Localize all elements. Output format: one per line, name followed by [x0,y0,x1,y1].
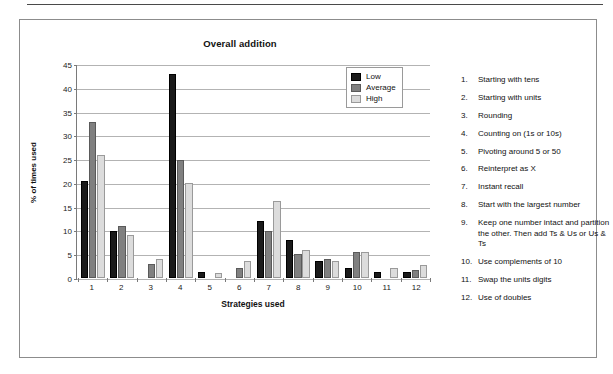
y-axis-tick-label: 35 [63,108,72,117]
x-axis-tick-mark [283,278,284,282]
x-axis-tick-mark [195,278,196,282]
key-list-item-number: 4. [461,129,478,138]
key-list-item: 4.Counting on (1s or 10s) [461,129,611,140]
chart-legend: Low Average High [346,67,403,108]
bar-low-10 [345,268,353,278]
bar-high-3 [156,259,164,278]
x-axis-tick-label: 7 [254,283,284,292]
key-list-item-number: 5. [461,147,478,156]
x-axis-tick-label: 5 [195,283,225,292]
bar-high-8 [302,250,310,278]
bar-group [137,65,166,278]
x-axis-tick-label: 8 [284,283,314,292]
y-axis-title: % of times used [26,65,40,280]
page-top-rule [27,4,603,5]
key-list-item-number: 7. [461,182,478,191]
x-axis-tick-label: 3 [136,283,166,292]
key-list-item: 6.Reinterpret as X [461,164,611,175]
x-axis-tick-mark [254,278,255,282]
key-list-item-text: Rounding [478,111,512,122]
bar-low-4 [169,74,177,278]
x-axis-tick-labels: 123456789101112 [77,283,431,292]
legend-item-average: Average [351,82,396,93]
y-axis-tick-label: 0 [68,275,72,284]
key-list-item-text: Use complements of 10 [478,257,562,268]
x-axis-tick-mark [225,278,226,282]
legend-label-average: Average [366,83,396,92]
x-axis-tick-label: 6 [225,283,255,292]
bar-low-7 [257,221,265,278]
y-axis-tick-label: 30 [63,132,72,141]
y-axis-tick-label: 5 [68,251,72,260]
bar-average-10 [353,252,361,279]
bar-group [313,65,342,278]
key-list-item-number: 3. [461,111,478,120]
y-axis-tick-mark [74,231,77,232]
bar-group [78,65,107,278]
key-list-item-text: Starting with tens [478,75,539,86]
key-list-item-text: Starting with units [478,93,541,104]
bar-group [166,65,195,278]
bar-high-4 [185,183,193,278]
key-list-item-text: Use of doubles [478,293,531,304]
y-axis-tick-label: 10 [63,227,72,236]
key-list-item-number: 1. [461,75,478,84]
figure-container: Overall addition % of times used 0510152… [19,19,597,358]
x-axis-tick-label: 1 [77,283,107,292]
legend-label-high: High [366,94,382,103]
x-axis-title: Strategies used [76,299,430,309]
chart-title: Overall addition [20,38,460,49]
key-list-item-number: 2. [461,93,478,102]
x-axis-tick-label: 4 [166,283,196,292]
y-axis-tick-label: 25 [63,156,72,165]
key-list-item: 3.Rounding [461,111,611,122]
x-axis-tick-label: 10 [343,283,373,292]
y-axis-title-label: % of times used [29,142,38,203]
x-axis-tick-label: 12 [402,283,432,292]
key-list-item-number: 11. [461,275,478,284]
x-axis-tick-mark [313,278,314,282]
y-axis-tick-mark [74,89,77,90]
legend-label-low: Low [366,72,381,81]
legend-swatch-low-icon [351,73,361,81]
bar-average-6 [236,268,244,278]
bar-high-7 [273,201,281,278]
bar-group [107,65,136,278]
bar-high-10 [361,252,369,279]
x-axis-tick-label: 9 [313,283,343,292]
bar-low-11 [374,272,382,278]
key-list-item-number: 9. [461,218,478,227]
x-axis-tick-mark [342,278,343,282]
bar-average-1 [89,122,97,278]
bar-average-8 [294,254,302,278]
legend-swatch-high-icon [351,95,361,103]
y-axis-tick-mark [74,255,77,256]
key-list-item: 9.Keep one number intact and partition t… [461,218,611,250]
y-axis-tick-mark [74,208,77,209]
bar-average-7 [265,231,273,278]
x-axis-tick-mark [166,278,167,282]
y-axis-tick-mark [74,279,77,280]
legend-swatch-average-icon [351,84,361,92]
key-list-item: 2.Starting with units [461,93,611,104]
bar-group [254,65,283,278]
bar-average-12 [412,270,420,278]
bar-high-5 [215,273,223,278]
bar-group [195,65,224,278]
key-list-item-text: Swap the units digits [478,275,551,286]
key-list-item-number: 10. [461,257,478,266]
key-list-item-number: 6. [461,164,478,173]
key-list-item: 12.Use of doubles [461,293,611,304]
bar-low-12 [403,272,411,278]
key-list-item: 5.Pivoting around 5 or 50 [461,147,611,158]
bar-high-12 [420,265,428,278]
x-axis-tick-mark [371,278,372,282]
legend-item-high: High [351,93,396,104]
x-axis-tick-label: 11 [372,283,402,292]
key-list-item-text: Pivoting around 5 or 50 [478,147,561,158]
key-list-item-text: Counting on (1s or 10s) [478,129,562,140]
x-axis-tick-label: 2 [107,283,137,292]
y-axis-tick-mark [74,184,77,185]
x-axis-tick-mark [430,278,431,282]
x-axis-tick-mark [78,278,79,282]
